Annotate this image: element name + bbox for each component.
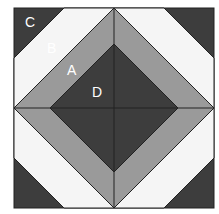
label-b: B [47, 40, 56, 56]
nested-squares-diagram [0, 0, 219, 214]
label-d: D [92, 84, 102, 100]
label-c: C [25, 14, 35, 30]
label-a: A [67, 62, 76, 78]
